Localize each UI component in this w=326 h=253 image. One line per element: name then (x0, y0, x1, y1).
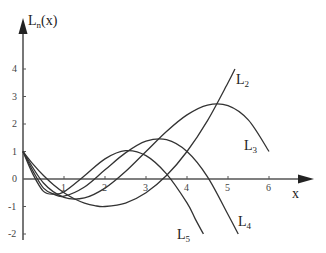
x-tick-label: 5 (225, 183, 230, 193)
y-tick-label: 4 (12, 64, 17, 74)
x-tick-label: 4 (184, 183, 189, 193)
x-tick-label: 1 (61, 183, 66, 193)
y-tick-label: 1 (12, 147, 17, 157)
curves (23, 69, 269, 234)
axes (19, 18, 315, 240)
chart-plot-area (0, 0, 326, 253)
label-L2: L2 (236, 73, 249, 89)
x-axis-arrow-icon (298, 175, 314, 184)
y-tick-label: 0 (12, 174, 17, 184)
y-axis-arrow-icon (19, 18, 28, 34)
x-tick-label: 6 (266, 183, 271, 193)
label-L5: L5 (177, 228, 190, 244)
label-L3: L3 (244, 139, 257, 155)
y-tick-label: -2 (8, 229, 16, 239)
y-tick-label: 3 (12, 92, 17, 102)
x-axis-label: x (292, 187, 299, 201)
y-tick-label: 2 (12, 119, 17, 129)
y-axis-label: Ln(x) (28, 14, 57, 30)
y-tick-label: -1 (8, 202, 16, 212)
curve-L2 (23, 69, 235, 207)
x-tick-label: 3 (143, 183, 148, 193)
x-tick-label: 2 (102, 183, 107, 193)
label-L4: L4 (238, 215, 251, 231)
